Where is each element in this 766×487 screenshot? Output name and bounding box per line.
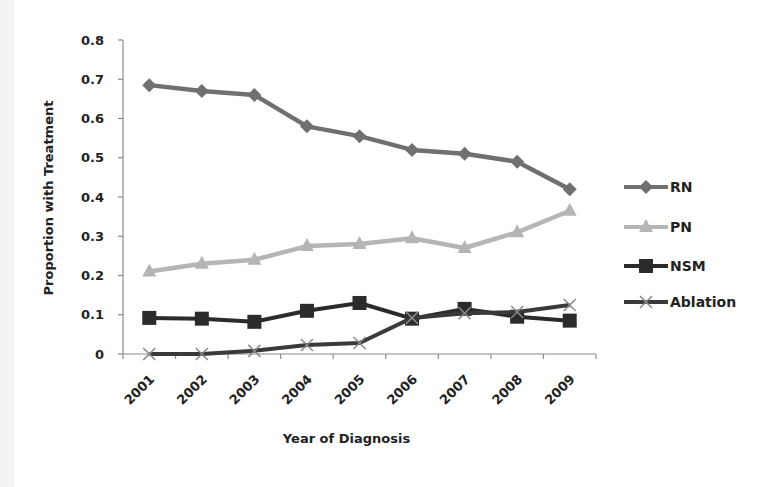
x-axis-title: Year of Diagnosis: [282, 431, 411, 446]
y-tick-label: 0.2: [81, 268, 104, 283]
legend-label: Ablation: [670, 294, 736, 310]
y-tick-label: 0.3: [81, 229, 104, 244]
square-marker: [195, 312, 209, 326]
series-line: [149, 305, 569, 354]
diamond-marker: [195, 84, 209, 98]
x-tick-label: 2006: [384, 372, 420, 408]
x-tick-label: 2003: [226, 372, 262, 408]
square-marker: [353, 296, 367, 310]
x-tick-label: 2009: [542, 372, 578, 408]
triangle-marker: [563, 203, 577, 216]
legend-label: PN: [670, 219, 692, 235]
diamond-marker: [142, 78, 156, 92]
diamond-marker: [353, 129, 367, 143]
x-tick-label: 2008: [489, 372, 525, 408]
axes: 00.10.20.30.40.50.60.70.8200120022003200…: [41, 33, 596, 447]
y-tick-label: 0: [95, 347, 104, 362]
line-chart: 00.10.20.30.40.50.60.70.8200120022003200…: [0, 0, 766, 487]
y-axis-title: Proportion with Treatment: [41, 101, 56, 296]
series-pn: [142, 203, 576, 277]
legend-item-rn: RN: [624, 179, 693, 195]
legend-item-ablation: Ablation: [624, 294, 736, 310]
diamond-marker: [458, 147, 472, 161]
y-tick-label: 0.8: [81, 33, 104, 48]
diamond-marker: [639, 180, 653, 194]
legend: RNPNNSMAblation: [624, 179, 736, 310]
legend-item-pn: PN: [624, 219, 692, 235]
x-tick-label: 2001: [121, 372, 157, 408]
y-tick-label: 0.7: [81, 72, 104, 87]
square-marker: [563, 314, 577, 328]
x-tick-label: 2007: [437, 372, 473, 408]
x-tick-label: 2002: [174, 372, 210, 408]
y-tick-label: 0.4: [81, 190, 104, 205]
square-marker: [639, 259, 653, 273]
y-tick-label: 0.6: [81, 111, 104, 126]
y-tick-label: 0.5: [81, 150, 104, 165]
square-marker: [300, 304, 314, 318]
series-rn: [142, 78, 576, 196]
legend-label: RN: [670, 179, 693, 195]
y-tick-label: 0.1: [81, 307, 104, 322]
x-tick-label: 2004: [279, 372, 315, 408]
x-tick-label: 2005: [331, 372, 367, 408]
legend-item-nsm: NSM: [624, 258, 706, 274]
square-marker: [247, 315, 261, 329]
square-marker: [142, 311, 156, 325]
diamond-marker: [405, 143, 419, 157]
legend-label: NSM: [670, 258, 706, 274]
